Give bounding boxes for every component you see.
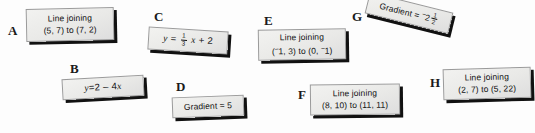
card-c-tail: + 2: [198, 35, 213, 47]
card-g-text: Gradient = −212: [378, 0, 440, 28]
card-e[interactable]: Line joining (−1, 3) to (0, −1): [258, 28, 346, 60]
card-c-frac-denominator: 3: [180, 39, 186, 47]
card-label-b: B: [70, 62, 79, 75]
card-g-frac-denominator: 2: [430, 18, 437, 27]
card-b-equation: y=2 – 4x: [84, 80, 122, 95]
card-c-equation: y = 13 x + 2: [163, 32, 214, 49]
card-c-fraction: 13: [180, 32, 187, 47]
card-h-line2: (2, 7) to (5, 22): [458, 83, 516, 96]
card-a[interactable]: Line joining (5, 7) to (7, 2): [26, 7, 115, 42]
card-f-line2: (8, 10) to (11, 11): [322, 99, 388, 111]
card-c-variable: x: [191, 35, 196, 45]
card-label-d: D: [176, 80, 185, 93]
card-label-g: G: [352, 10, 362, 23]
card-a-line2: (5, 7) to (7, 2): [43, 24, 96, 36]
card-label-e: E: [264, 14, 273, 27]
card-c-equals: =: [170, 33, 177, 44]
card-label-c: C: [154, 10, 163, 23]
card-d[interactable]: Gradient = 5: [172, 95, 245, 119]
card-a-line1: Line joining: [48, 13, 92, 25]
card-b[interactable]: y=2 – 4x: [61, 75, 144, 101]
card-c-lhs: y: [163, 33, 168, 43]
card-e-part1: 1, 3) to (0,: [278, 45, 321, 56]
card-b-rhs-var: x: [117, 81, 122, 91]
worksheet-canvas: A Line joining (5, 7) to (7, 2) B y=2 – …: [0, 0, 535, 133]
card-f[interactable]: Line joining (8, 10) to (11, 11): [310, 83, 400, 115]
card-d-text: Gradient = 5: [184, 100, 233, 113]
card-label-h: H: [430, 76, 440, 89]
card-b-rhs: 2 – 4: [94, 80, 117, 92]
card-label-a: A: [8, 24, 17, 37]
card-e-line2: (−1, 3) to (0, −1): [272, 43, 333, 57]
card-label-f: F: [298, 88, 306, 101]
card-g[interactable]: Gradient = −212: [365, 0, 454, 34]
card-e-line1: Line joining: [280, 32, 324, 44]
card-h[interactable]: Line joining (2, 7) to (5, 22): [443, 67, 532, 100]
card-e-part2: 1): [324, 45, 332, 55]
card-c[interactable]: y = 13 x + 2: [147, 27, 228, 55]
card-f-line1: Line joining: [333, 88, 377, 100]
card-g-label: Gradient =: [379, 0, 424, 20]
